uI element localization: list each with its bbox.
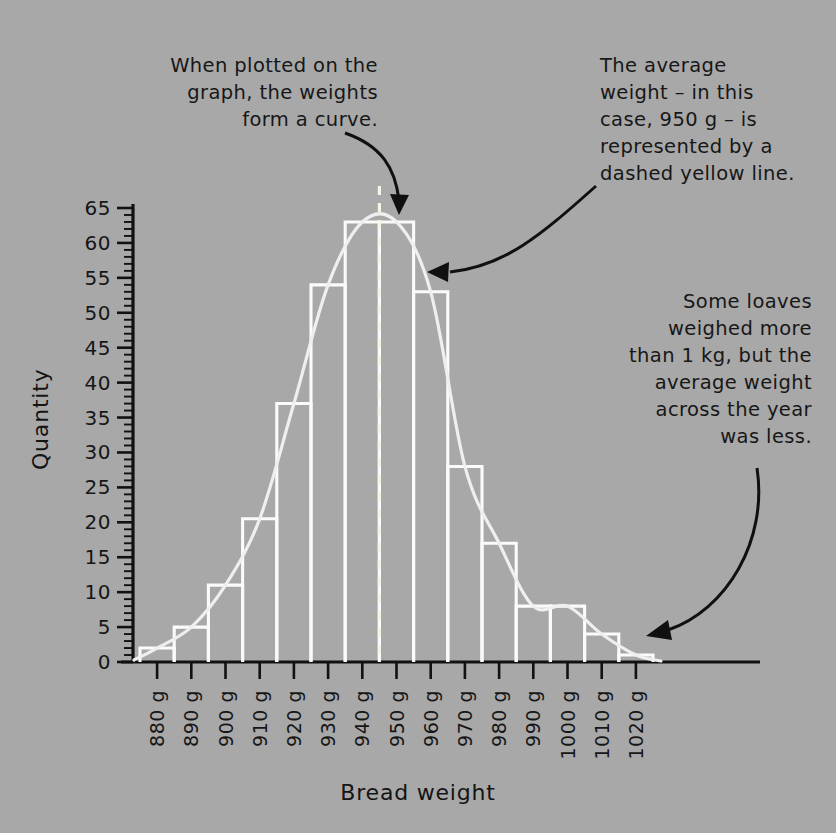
histogram-bar [482, 543, 516, 662]
chart-canvas: When plotted on the graph, the weights f… [0, 0, 836, 833]
x-tick-label: 930 g [317, 690, 339, 747]
curve-layer [134, 214, 661, 661]
y-tick-label: 10 [85, 580, 111, 604]
x-tick-label: 1020 g [625, 690, 647, 759]
histogram-bar [516, 606, 550, 662]
x-tick-label: 970 g [454, 690, 476, 747]
arrow-to-meanline [450, 186, 596, 272]
histogram-bar [208, 585, 242, 662]
arrow-to-meanline-head [427, 262, 449, 282]
histogram-bar [585, 634, 619, 662]
x-tick-label: 910 g [249, 690, 271, 747]
arrow-to-loaves-head [646, 620, 672, 640]
x-tick-label: 1000 g [557, 690, 579, 759]
y-tick-label: 65 [85, 196, 111, 220]
histogram-bar [243, 519, 277, 662]
x-tick-label: 980 g [488, 690, 510, 747]
arrow-to-curve [345, 133, 399, 200]
x-axis-title: Bread weight [340, 780, 495, 805]
y-tick-label: 60 [85, 231, 111, 255]
y-tick-label: 25 [85, 475, 111, 499]
annotation-arrows [345, 133, 759, 640]
y-tick-label: 35 [85, 406, 111, 430]
x-tick-label: 920 g [283, 690, 305, 747]
arrow-to-curve-head [390, 194, 409, 215]
y-tick-label: 50 [85, 301, 111, 325]
x-tick-label: 960 g [420, 690, 442, 747]
x-tick-label: 890 g [180, 690, 202, 747]
x-tick-label: 990 g [522, 690, 544, 747]
histogram-bar [448, 466, 482, 662]
y-tick-label: 5 [98, 615, 111, 639]
x-tick-label: 880 g [146, 690, 168, 747]
y-tick-labels: 05101520253035404550556065 [85, 196, 111, 674]
y-axis-title: Quantity [28, 369, 53, 470]
histogram-plot: 05101520253035404550556065 880 g890 g900… [0, 0, 836, 833]
histogram-bar [311, 285, 345, 662]
arrow-to-loaves [668, 468, 759, 630]
distribution-curve [134, 214, 661, 661]
y-tick-label: 20 [85, 510, 111, 534]
x-tick-label: 1010 g [591, 690, 613, 759]
histogram-bar [174, 627, 208, 662]
x-tick-labels: 880 g890 g900 g910 g920 g930 g940 g950 g… [146, 690, 647, 759]
histogram-bar [345, 222, 379, 662]
x-tick-label: 900 g [215, 690, 237, 747]
y-tick-label: 40 [85, 371, 111, 395]
y-tick-label: 0 [98, 650, 111, 674]
y-tick-label: 15 [85, 545, 111, 569]
x-tick-label: 950 g [386, 690, 408, 747]
y-tick-label: 45 [85, 336, 111, 360]
histogram-bar [379, 222, 413, 662]
y-tick-label: 55 [85, 266, 111, 290]
x-tick-label: 940 g [351, 690, 373, 747]
y-tick-label: 30 [85, 440, 111, 464]
